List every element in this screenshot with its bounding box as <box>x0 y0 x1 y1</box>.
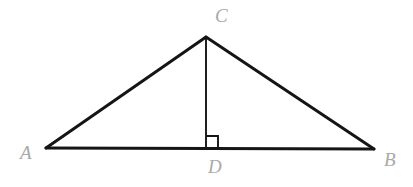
triangle-diagram-canvas <box>0 0 413 187</box>
right-angle-marker-icon <box>206 136 218 148</box>
geometry-figure: A B C D <box>0 0 413 187</box>
vertex-label-a: A <box>20 143 32 162</box>
segment-ab <box>46 148 374 149</box>
segment-cb <box>206 37 374 149</box>
vertex-label-b: B <box>384 150 396 169</box>
vertex-label-c: C <box>215 6 228 25</box>
segment-ac <box>46 37 206 148</box>
vertex-label-d: D <box>208 157 222 176</box>
